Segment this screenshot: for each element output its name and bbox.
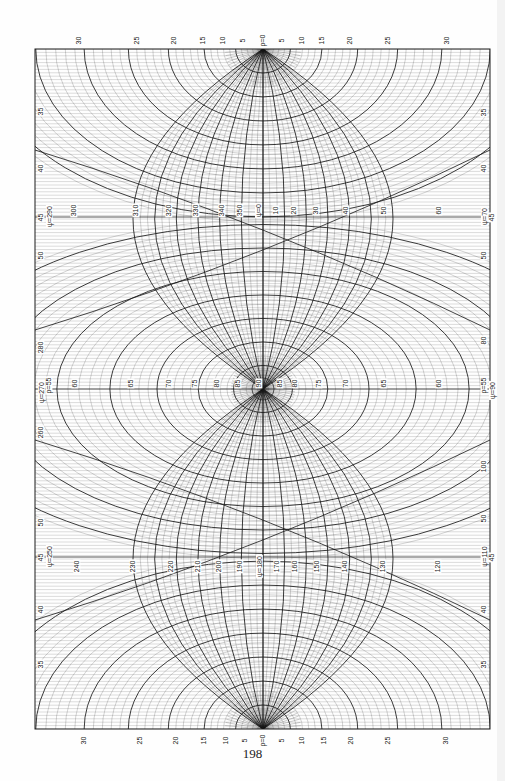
- projection-graticule: [0, 0, 505, 781]
- top-edge-label: 5: [278, 37, 285, 43]
- bottom-edge-label: 5: [278, 737, 285, 743]
- bottom-edge-label: 20: [347, 735, 354, 745]
- meridian-label: 160: [291, 559, 298, 573]
- meridian-label: 230: [129, 559, 136, 573]
- parallel-label: 65: [127, 378, 134, 388]
- right-edge-label: ρ=55: [480, 376, 487, 394]
- right-edge-label: 45: [488, 552, 495, 562]
- meridian-label: 40: [342, 205, 349, 215]
- page-number: 198: [0, 746, 505, 762]
- meridian-label: 200: [215, 559, 222, 573]
- meridian-label: 340: [218, 203, 225, 217]
- left-edge-label: ψ=270: [37, 381, 44, 404]
- bottom-edge-label: 15: [200, 735, 207, 745]
- meridian-label: 10: [272, 205, 279, 215]
- right-edge-label: 45: [488, 212, 495, 222]
- left-edge-label: 45: [37, 552, 44, 562]
- scanned-page: 30252015105ρ=05101520253030252015105ρ=05…: [0, 0, 505, 781]
- left-edge-label: 280: [37, 340, 44, 354]
- bottom-edge-label: 30: [442, 735, 449, 745]
- top-edge-label: 5: [239, 37, 246, 43]
- meridian-label: 30: [312, 205, 319, 215]
- bottom-edge-label: 10: [298, 735, 305, 745]
- meridian-label: 310: [132, 203, 139, 217]
- meridian-label: 20: [290, 205, 297, 215]
- parallel-label: 65: [380, 378, 387, 388]
- parallel-label: 75: [191, 378, 198, 388]
- parallel-label: 85: [234, 378, 241, 388]
- meridian-label: 120: [434, 559, 441, 573]
- top-edge-label: 30: [75, 35, 82, 45]
- left-edge-label: 40: [37, 163, 44, 173]
- left-edge-label: 260: [37, 425, 44, 439]
- meridian-label: 210: [194, 559, 201, 573]
- top-edge-label: 25: [133, 35, 140, 45]
- left-edge-label: 35: [37, 106, 44, 116]
- top-edge-label: 30: [443, 35, 450, 45]
- parallel-label: 70: [165, 378, 172, 388]
- meridian-label: 190: [236, 559, 243, 573]
- meridian-label: 60: [435, 205, 442, 215]
- top-edge-label: 20: [170, 35, 177, 45]
- bottom-edge-label: 20: [172, 735, 179, 745]
- meridian-label: 50: [380, 205, 387, 215]
- left-edge-label: ψ=290: [45, 205, 52, 228]
- meridian-label: 220: [167, 559, 174, 573]
- parallel-label: 85: [276, 378, 283, 388]
- right-edge-label: ψ=90: [488, 381, 495, 400]
- parallel-label: 80: [291, 378, 298, 388]
- meridian-label: 330: [192, 203, 199, 217]
- parallel-label: 90: [255, 378, 262, 388]
- right-edge-label: 50: [480, 513, 487, 523]
- parallel-label: 75: [315, 378, 322, 388]
- right-edge-label: 80: [480, 335, 487, 345]
- parallel-label: 70: [342, 378, 349, 388]
- parallel-label: 60: [71, 378, 78, 388]
- meridian-label: 140: [341, 559, 348, 573]
- bottom-edge-label: 30: [80, 735, 87, 745]
- meridian-label: 300: [70, 203, 77, 217]
- top-edge-label: 25: [384, 35, 391, 45]
- left-edge-label: ψ=250: [45, 545, 52, 568]
- left-edge-label: ρ=55: [45, 376, 52, 394]
- meridian-label: ψ=180: [255, 555, 262, 578]
- bottom-edge-label: 25: [384, 735, 391, 745]
- top-edge-label: ρ=0: [259, 33, 266, 47]
- parallel-label: 80: [213, 378, 220, 388]
- left-edge-label: 50: [37, 250, 44, 260]
- right-edge-label: 35: [480, 659, 487, 669]
- right-edge-label: 50: [480, 250, 487, 260]
- right-edge-label: 40: [480, 604, 487, 614]
- bottom-edge-label: 10: [222, 735, 229, 745]
- meridian-label: 240: [73, 559, 80, 573]
- meridian-label: 150: [313, 559, 320, 573]
- bottom-edge-label: 5: [241, 737, 248, 743]
- meridian-label: 130: [379, 559, 386, 573]
- top-edge-label: 10: [298, 35, 305, 45]
- left-edge-label: 40: [37, 604, 44, 614]
- parallel-label: 60: [435, 378, 442, 388]
- meridian-label: 320: [165, 203, 172, 217]
- left-edge-label: 45: [37, 212, 44, 222]
- top-edge-label: 20: [346, 35, 353, 45]
- right-edge-label: ψ=70: [480, 207, 487, 226]
- left-edge-label: 50: [37, 517, 44, 527]
- bottom-edge-label: ρ=0: [259, 733, 266, 747]
- right-edge-label: 35: [480, 107, 487, 117]
- top-edge-label: 15: [199, 35, 206, 45]
- bottom-edge-label: 25: [136, 735, 143, 745]
- bottom-edge-label: 15: [320, 735, 327, 745]
- top-edge-label: 15: [318, 35, 325, 45]
- meridian-label: 170: [273, 559, 280, 573]
- right-edge-label: 100: [480, 459, 487, 473]
- left-edge-label: 35: [37, 659, 44, 669]
- right-edge-label: 40: [480, 163, 487, 173]
- meridian-label: ψ=0: [254, 203, 261, 218]
- top-edge-label: 10: [219, 35, 226, 45]
- right-edge-label: ψ=110: [481, 545, 488, 567]
- meridian-label: 350: [236, 203, 243, 217]
